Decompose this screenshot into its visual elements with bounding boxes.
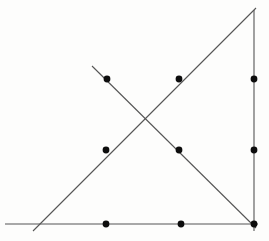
point-bottom-left	[103, 221, 110, 228]
geometric-figure-svg	[0, 0, 269, 241]
figure-container	[0, 0, 269, 241]
point-mid-middle	[176, 147, 183, 154]
point-top-right	[251, 76, 258, 83]
point-mid-right	[251, 147, 258, 154]
point-top-middle	[176, 76, 183, 83]
point-bottom-middle	[178, 221, 185, 228]
figure-background	[0, 0, 269, 241]
point-bottom-right	[251, 221, 258, 228]
point-top-left	[104, 76, 111, 83]
point-mid-left	[103, 147, 110, 154]
